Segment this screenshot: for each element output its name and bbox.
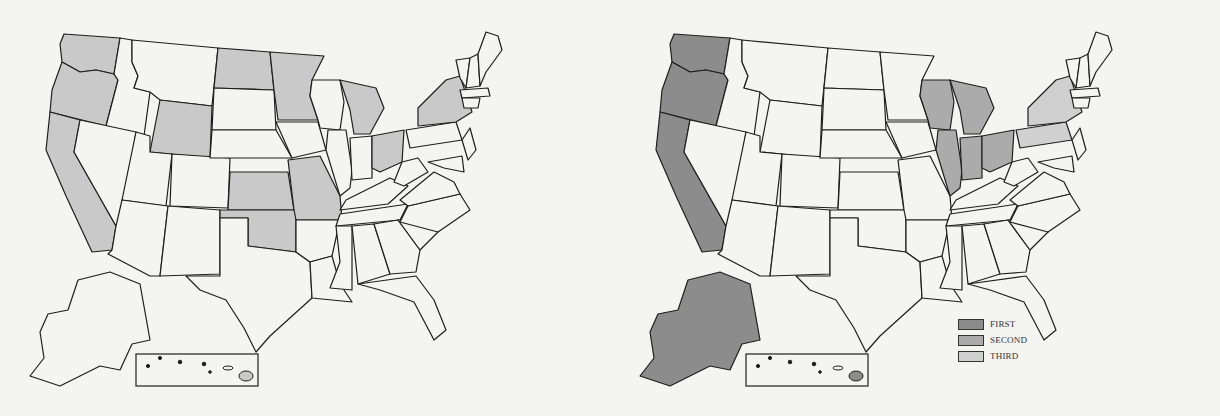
hawaii-inset-frame: [136, 354, 258, 386]
state-ct: [1072, 98, 1090, 108]
state-nj: [462, 128, 476, 160]
legend-swatch-second: [958, 335, 984, 346]
state-ak: [30, 272, 150, 386]
hawaii-island-4: [812, 362, 816, 366]
state-nd: [214, 48, 274, 90]
hawaii-island-2: [158, 356, 161, 359]
left-map: [0, 0, 610, 416]
state-wy: [150, 100, 212, 158]
state-ar: [296, 220, 340, 262]
state-nd: [824, 48, 884, 90]
state-ne: [820, 130, 902, 158]
state-oh: [982, 130, 1014, 172]
state-ak: [640, 272, 760, 386]
hawaii-island-1: [146, 364, 149, 367]
state-me: [478, 32, 502, 86]
state-nm: [770, 206, 830, 276]
right-map-svg: [610, 0, 1220, 416]
hawaii-island-2: [768, 356, 771, 359]
state-fl: [358, 276, 446, 340]
state-in: [960, 136, 982, 180]
state-me: [1088, 32, 1112, 86]
hawaii-island-7: [849, 371, 863, 381]
hawaii-island-7: [239, 371, 253, 381]
state-in: [350, 136, 372, 180]
legend-swatch-third: [958, 351, 984, 362]
hawaii-island-6: [223, 366, 233, 370]
state-ar: [906, 220, 950, 262]
state-mi: [340, 80, 384, 134]
hawaii-inset-frame: [746, 354, 868, 386]
state-nm: [160, 206, 220, 276]
state-nj: [1072, 128, 1086, 160]
state-ma: [460, 88, 490, 98]
legend-item-first: FIRST: [958, 316, 1027, 332]
state-sd: [212, 88, 276, 130]
legend-item-third: THIRD: [958, 348, 1027, 364]
legend: FIRST SECOND THIRD: [958, 316, 1027, 364]
right-map: [610, 0, 1220, 416]
hawaii-island-1: [756, 364, 759, 367]
state-ks: [228, 172, 294, 210]
state-pa: [406, 122, 462, 148]
state-pa: [1016, 122, 1072, 148]
state-ma: [1070, 88, 1100, 98]
hawaii-island-3: [178, 360, 182, 364]
hawaii-island-5: [209, 371, 212, 374]
state-ne: [210, 130, 292, 158]
hawaii-island-4: [202, 362, 206, 366]
state-md: [428, 156, 464, 172]
state-md: [1038, 156, 1074, 172]
hawaii-island-6: [833, 366, 843, 370]
hawaii-island-3: [788, 360, 792, 364]
hawaii-island-5: [819, 371, 822, 374]
state-mi: [950, 80, 994, 134]
legend-item-second: SECOND: [958, 332, 1027, 348]
left-map-svg: [0, 0, 610, 416]
legend-swatch-first: [958, 319, 984, 330]
state-sd: [822, 88, 886, 130]
state-co: [780, 154, 840, 208]
state-oh: [372, 130, 404, 172]
legend-label-second: SECOND: [990, 335, 1027, 345]
state-ct: [462, 98, 480, 108]
state-ks: [838, 172, 904, 210]
legend-label-first: FIRST: [990, 319, 1016, 329]
state-wy: [760, 100, 822, 158]
legend-label-third: THIRD: [990, 351, 1019, 361]
state-co: [170, 154, 230, 208]
